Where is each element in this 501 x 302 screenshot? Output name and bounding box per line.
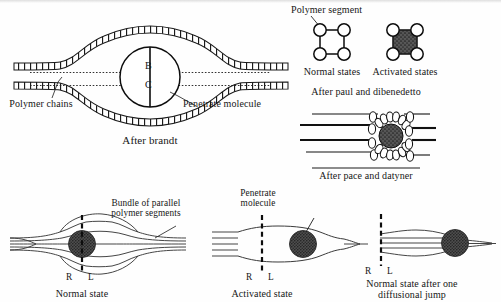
- paul-dibenedetto-diagram: [311, 16, 423, 60]
- marker-r-after-jump: R: [365, 266, 371, 276]
- marker-b: B: [145, 60, 152, 71]
- activated-state-diagram: [212, 215, 368, 272]
- marker-l-activated: L: [268, 272, 274, 282]
- after-jump-diagram: [380, 214, 496, 266]
- marker-l-normal: L: [88, 272, 94, 282]
- penetrate-molecule-pace: [379, 124, 403, 148]
- penetrate-molecule-after-jump: [442, 230, 469, 257]
- marker-c: C: [145, 79, 152, 90]
- label-penetrate-molecule-brandt: Penetrate molecule: [183, 98, 261, 109]
- label-activated-states: Activated states: [372, 66, 437, 77]
- label-bundle-line1: Bundle of parallel: [111, 198, 181, 208]
- normal-state-diagram: [10, 214, 186, 274]
- label-penetrate-line1: Penetrate: [240, 188, 276, 198]
- caption-after-jump: Normal state after one diffusional jump: [366, 278, 457, 300]
- label-polymer-chains: Polymer chains: [9, 98, 72, 109]
- caption-activated-state: Activated state: [231, 288, 292, 299]
- marker-l-after-jump: L: [387, 266, 393, 276]
- caption-after-paul-dibenedetto: After paul and dibenedetto: [311, 86, 421, 97]
- label-normal-states: Normal states: [304, 66, 361, 77]
- bundle-after-jump: [380, 230, 496, 256]
- caption-normal-state: Normal state: [56, 288, 109, 299]
- polymer-segment-activated: [387, 24, 423, 60]
- caption-after-brandt: After brandt: [122, 134, 177, 146]
- marker-r-activated: R: [246, 272, 252, 282]
- heading-polymer-segment: Polymer segment: [291, 4, 362, 15]
- pace-left-chains: [300, 114, 378, 152]
- diffusion-models-figure: [0, 0, 501, 302]
- label-penetrate-molecule-activated: Penetrate molecule: [240, 188, 276, 209]
- polymer-segment-normal: [314, 24, 350, 60]
- label-bundle-line2: polymer segments: [111, 208, 181, 218]
- leader-bundle: [155, 226, 176, 238]
- brandt-diagram: [14, 26, 288, 126]
- caption-after-jump-line2: diffusional jump: [366, 289, 457, 300]
- label-penetrate-line2: molecule: [240, 198, 276, 208]
- pace-datyner-diagram: [300, 112, 436, 168]
- marker-r-normal: R: [66, 272, 72, 282]
- penetrate-molecule-activated: [290, 231, 317, 258]
- label-bundle-of-parallel-polymer-segments: Bundle of parallel polymer segments: [111, 198, 181, 219]
- bundle-normal: [10, 221, 186, 267]
- caption-after-jump-line1: Normal state after one: [366, 278, 457, 289]
- caption-after-pace-datyner: After pace and datyner: [319, 170, 413, 181]
